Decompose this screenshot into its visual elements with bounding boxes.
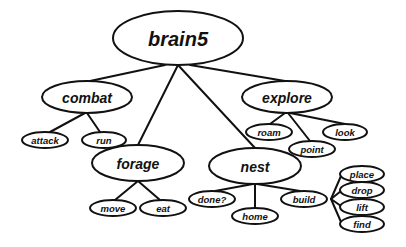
edge-nest-done (215, 184, 253, 191)
node-brain5: brain5 (113, 11, 243, 65)
node-label: run (96, 135, 112, 146)
node-explore: explore (242, 81, 332, 113)
edge-nest-build (257, 184, 300, 191)
node-label: eat (156, 203, 171, 214)
node-label: look (335, 127, 355, 138)
edge-brain5-combat (90, 65, 165, 81)
node-label: move (101, 203, 127, 214)
node-find: find (340, 216, 384, 232)
node-forage: forage (92, 145, 184, 181)
node-label: place (349, 169, 375, 180)
edge-explore-look (290, 113, 345, 124)
node-drop: drop (340, 182, 384, 198)
node-combat: combat (42, 81, 132, 113)
node-lift: lift (340, 199, 384, 215)
edge-brain5-forage (138, 65, 178, 145)
node-label: explore (262, 90, 312, 106)
node-label: attack (31, 135, 59, 146)
node-look: look (323, 124, 367, 140)
behavior-tree-diagram: brain5combatexploreforagenestattackrunro… (0, 0, 406, 247)
node-label: drop (351, 185, 372, 196)
edge-combat-attack (50, 113, 85, 132)
node-home: home (232, 208, 278, 224)
node-point: point (289, 141, 335, 157)
node-label: lift (356, 202, 368, 213)
node-done: done? (189, 191, 235, 207)
node-build: build (281, 191, 327, 207)
edge-brain5-nest (178, 65, 255, 148)
node-label: build (293, 194, 316, 205)
node-label: home (242, 211, 268, 222)
node-label: done? (198, 194, 227, 205)
edge-combat-run (87, 113, 100, 132)
node-label: find (353, 219, 371, 230)
node-run: run (82, 132, 126, 148)
node-label: forage (117, 156, 160, 172)
edge-brain5-explore (190, 65, 285, 81)
node-label: roam (257, 127, 281, 138)
node-place: place (340, 166, 384, 182)
edge-explore-roam (270, 113, 285, 124)
node-label: brain5 (148, 28, 209, 50)
edge-forage-eat (138, 181, 160, 200)
node-label: point (299, 144, 324, 155)
node-roam: roam (246, 124, 292, 140)
node-attack: attack (22, 132, 68, 148)
node-eat: eat (140, 200, 186, 216)
node-move: move (90, 200, 136, 216)
node-label: nest (241, 159, 271, 175)
node-label: combat (62, 90, 113, 106)
node-nest: nest (209, 148, 301, 184)
edge-forage-move (115, 181, 138, 200)
